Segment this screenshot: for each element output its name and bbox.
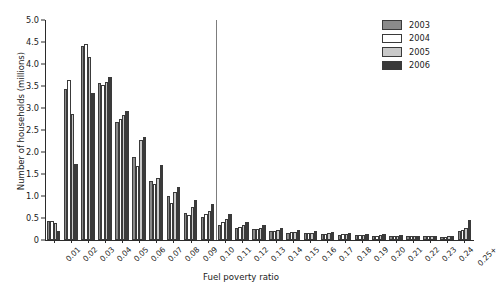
bar-group <box>184 20 198 240</box>
bar-group <box>47 20 61 240</box>
x-axis-tick-label: 0.25+ <box>476 245 499 268</box>
x-axis-tick-label: 0.08 <box>183 245 201 263</box>
y-axis-tick-label: 2.5 <box>26 125 39 135</box>
legend-swatch-2006 <box>382 61 402 71</box>
x-axis-tick-label: 0.14 <box>286 245 304 263</box>
bar-group <box>321 20 335 240</box>
x-axis-tick-label: 0.11 <box>235 245 253 263</box>
bar-group <box>304 20 318 240</box>
y-axis-tick-label: 3.0 <box>26 103 39 113</box>
x-axis-tick-mark <box>208 240 209 243</box>
legend-label: 2005 <box>409 47 430 57</box>
x-axis-tick-label: 0.01 <box>64 245 82 263</box>
x-axis-tick-mark <box>430 240 431 243</box>
x-axis-tick-label: 0.13 <box>269 245 287 263</box>
bar-2006-0.18 <box>348 233 351 240</box>
y-axis-tick-label: 3.5 <box>26 81 39 91</box>
x-axis-tick-mark <box>276 240 277 243</box>
x-axis-tick-mark <box>379 240 380 243</box>
bar-2006-0.13 <box>262 225 265 240</box>
legend-label: 2004 <box>409 33 430 43</box>
y-axis-tick-label: 2.0 <box>26 147 39 157</box>
legend-item-2005: 2005 <box>382 45 478 59</box>
legend-label: 2003 <box>409 20 430 30</box>
legend-item-2004: 2004 <box>382 32 478 46</box>
bar-2006-0.08 <box>177 187 180 240</box>
bar-2006-0.02 <box>74 164 77 240</box>
x-axis-tick-label: 0.05 <box>132 245 150 263</box>
x-axis-tick-mark <box>122 240 123 243</box>
x-axis-tick-label: 0.03 <box>98 245 116 263</box>
x-axis-tick-label: 0.24 <box>457 245 475 263</box>
bar-group <box>201 20 215 240</box>
x-axis-tick-mark <box>71 240 72 243</box>
legend-swatch-2004 <box>382 34 402 44</box>
bar-group <box>167 20 181 240</box>
bar-2006-0.10 <box>211 204 214 240</box>
x-axis-tick-mark <box>139 240 140 243</box>
bar-group <box>115 20 129 240</box>
x-axis-tick-mark <box>259 240 260 243</box>
bar-2006-0.01 <box>57 231 60 240</box>
bar-2006-0.25+ <box>468 220 471 240</box>
y-axis-ticks: 00.51.01.52.02.53.03.54.04.55.0 <box>0 0 46 288</box>
x-axis-tick-mark <box>156 240 157 243</box>
x-axis-tick-mark <box>396 240 397 243</box>
x-axis-tick-label: 0.06 <box>149 245 167 263</box>
x-axis-tick-mark <box>345 240 346 243</box>
x-axis-tick-mark <box>413 240 414 243</box>
bar-group <box>218 20 232 240</box>
bar-group <box>81 20 95 240</box>
x-axis-tick-label: 0.02 <box>81 245 99 263</box>
legend-swatch-2005 <box>382 47 402 57</box>
bar-group <box>64 20 78 240</box>
x-axis-tick-label: 0.12 <box>252 245 270 263</box>
bar-2006-0.16 <box>314 231 317 240</box>
bar-group <box>338 20 352 240</box>
x-axis-tick-label: 0.07 <box>166 245 184 263</box>
x-axis-tick-mark <box>310 240 311 243</box>
bar-group <box>269 20 283 240</box>
bar-2006-0.03 <box>91 93 94 240</box>
x-axis-tick-label: 0.22 <box>423 245 441 263</box>
bar-group <box>252 20 266 240</box>
bar-2006-0.05 <box>125 111 128 240</box>
bar-2006-0.12 <box>245 222 248 240</box>
bar-2006-0.04 <box>108 77 111 240</box>
bar-group <box>132 20 146 240</box>
x-axis-label: Fuel poverty ratio <box>0 272 482 282</box>
y-axis-tick-label: 4.0 <box>26 59 39 69</box>
x-axis-tick-label: 0.09 <box>200 245 218 263</box>
x-axis-tick-label: 0.21 <box>406 245 424 263</box>
legend-swatch-2003 <box>382 20 402 30</box>
bar-group <box>235 20 249 240</box>
bar-2006-0.07 <box>160 165 163 240</box>
bar-group <box>355 20 369 240</box>
x-axis-tick-label: 0.23 <box>440 245 458 263</box>
x-axis-tick-mark <box>173 240 174 243</box>
legend-label: 2006 <box>409 60 430 70</box>
bar-2006-0.09 <box>194 200 197 240</box>
y-axis-tick-label: 5.0 <box>26 15 39 25</box>
x-axis-tick-mark <box>464 240 465 243</box>
y-axis-tick-label: 1.5 <box>26 169 39 179</box>
legend-item-2003: 2003 <box>382 18 478 32</box>
x-axis-tick-mark <box>242 240 243 243</box>
x-axis-tick-mark <box>327 240 328 243</box>
x-axis-tick-mark <box>447 240 448 243</box>
bar-2006-0.15 <box>297 230 300 240</box>
bar-group <box>149 20 163 240</box>
x-axis-tick-label: 0.18 <box>355 245 373 263</box>
bar-2006-0.11 <box>228 214 231 240</box>
x-axis-tick-label: 0.19 <box>372 245 390 263</box>
x-axis-tick-mark <box>88 240 89 243</box>
x-axis-tick-label: 0.17 <box>337 245 355 263</box>
x-axis-tick-label: 0.04 <box>115 245 133 263</box>
x-axis-tick-mark <box>362 240 363 243</box>
x-axis-tick-mark <box>293 240 294 243</box>
y-axis-tick-label: 0 <box>34 235 39 245</box>
x-axis-tick-mark <box>191 240 192 243</box>
x-axis-tick-mark <box>54 240 55 243</box>
bar-2006-0.14 <box>280 228 283 240</box>
